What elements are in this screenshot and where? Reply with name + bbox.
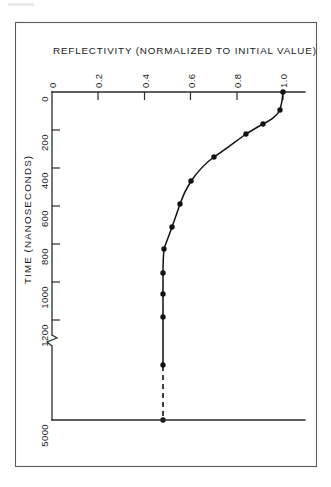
data-point [160, 291, 165, 296]
figure-page: REFLECTIVITY (NORMALIZED TO INITIAL VALU… [0, 0, 331, 487]
x-tick-label-1_0: 1.0 [278, 74, 289, 88]
y-tick-label-600: 600 [39, 210, 50, 227]
y-axis-ticks [52, 130, 60, 320]
y-tick-label-0: 0 [39, 96, 50, 102]
y-axis: 0 200 400 600 800 1000 1200 5000 TIME (N… [22, 92, 60, 447]
data-point [169, 224, 174, 229]
y-tick-label-200: 200 [39, 134, 50, 151]
x-tick-label-0_2: 0.2 [93, 74, 104, 88]
y-tick-label-1200: 1200 [39, 324, 50, 347]
reflectivity-vs-time-chart: REFLECTIVITY (NORMALIZED TO INITIAL VALU… [0, 0, 331, 487]
data-point [160, 362, 165, 367]
y-tick-label-400: 400 [39, 172, 50, 189]
data-point [243, 131, 248, 136]
data-point [277, 107, 282, 112]
y-tick-label-5000: 5000 [39, 424, 50, 447]
data-point [177, 201, 182, 206]
data-series-reflectivity [160, 89, 285, 422]
data-point [160, 270, 165, 275]
data-point [160, 314, 165, 319]
x-axis: 0 0.2 0.4 0.6 0.8 1.0 [47, 74, 305, 100]
y-tick-label-800: 800 [39, 248, 50, 265]
x-axis-ticks [98, 92, 283, 100]
x-tick-label-0: 0 [47, 82, 58, 88]
data-markers [160, 89, 285, 422]
chart-title: REFLECTIVITY (NORMALIZED TO INITIAL VALU… [53, 45, 317, 56]
data-point [211, 154, 216, 159]
y-axis-title: TIME (NANOSECONDS) [22, 155, 33, 284]
x-tick-label-0_6: 0.6 [186, 74, 197, 88]
scan-artifact [8, 3, 34, 6]
data-point [280, 89, 285, 94]
data-point [161, 246, 166, 251]
data-point [260, 121, 265, 126]
x-axis-tick-labels: 0 0.2 0.4 0.6 0.8 1.0 [47, 74, 289, 88]
x-tick-label-0_8: 0.8 [232, 74, 243, 88]
x-tick-label-0_4: 0.4 [140, 74, 151, 88]
y-tick-label-1000: 1000 [39, 286, 50, 309]
y-axis-tick-labels: 0 200 400 600 800 1000 1200 5000 [39, 96, 50, 447]
data-point [188, 178, 193, 183]
curve-solid-segment [163, 92, 283, 365]
